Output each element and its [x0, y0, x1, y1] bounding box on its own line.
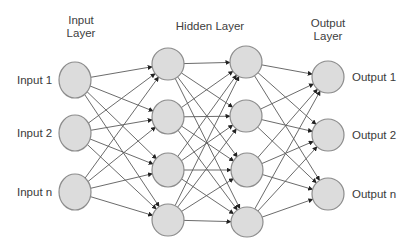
hidden-2-node-h2d: [231, 207, 263, 237]
connection-h2d-out2: [258, 147, 317, 211]
layer-title: Input: [68, 14, 94, 26]
connection-h2a-out1: [262, 65, 313, 74]
output-node-out2: [312, 119, 344, 151]
output-node-outN: [312, 178, 344, 210]
connections: [84, 62, 320, 221]
input-label: Input 2: [17, 127, 52, 139]
layer-title: Hidden Layer: [176, 20, 245, 32]
connection-in2-h1a: [88, 74, 155, 124]
hidden-1-node-h1d: [152, 204, 184, 236]
neurons: [59, 46, 344, 237]
connection-h2a-out2: [258, 73, 316, 125]
hidden-1-node-h1c: [152, 153, 184, 187]
hidden-2-node-h2b: [230, 100, 262, 132]
hidden-2-node-h2a: [230, 46, 262, 78]
input-node-inN: [59, 174, 91, 210]
connection-inN-h1d: [90, 197, 152, 216]
connection-in2-h1c: [90, 139, 153, 164]
connection-h2b-out1: [260, 84, 313, 109]
output-label: Output 2: [352, 129, 396, 141]
connection-h1c-h2d: [181, 179, 233, 214]
output-label: Output 1: [352, 71, 396, 83]
hidden-1-node-h1b: [152, 100, 184, 134]
connection-in2-h1d: [87, 144, 157, 209]
hidden-1-node-h1a: [152, 48, 184, 80]
connection-h2b-outN: [258, 127, 317, 183]
hidden-2-node-h2c: [231, 153, 263, 187]
connection-h2d-outN: [262, 199, 313, 217]
layer-titles: InputLayerHidden LayerOutputLayer: [67, 14, 346, 42]
input-node-in1: [59, 62, 91, 98]
connection-inN-h1a: [84, 77, 158, 179]
neural-network-diagram: InputLayerHidden LayerOutputLayer Input …: [0, 0, 410, 248]
output-node-out1: [312, 61, 344, 93]
connection-h1d-h2a: [175, 76, 239, 205]
output-label: Output n: [352, 188, 396, 200]
input-node-in2: [59, 115, 91, 151]
connection-h1d-h2d: [184, 220, 231, 221]
layer-title: Layer: [67, 27, 96, 39]
connection-h2a-outN: [254, 76, 319, 181]
input-label: Input n: [17, 186, 52, 198]
layer-title: Output: [311, 17, 346, 29]
connection-in1-h1a: [91, 67, 152, 78]
connection-h1a-h2a: [184, 62, 230, 63]
layer-title: Layer: [314, 30, 343, 42]
connection-h2b-out2: [262, 120, 313, 132]
input-label: Input 1: [17, 74, 52, 86]
connection-inN-h1c: [91, 174, 153, 189]
